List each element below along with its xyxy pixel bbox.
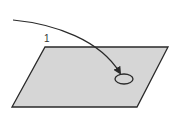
instruction-diagram: 1	[0, 0, 177, 114]
surface-plane	[12, 47, 168, 107]
step-label: 1	[44, 33, 50, 44]
